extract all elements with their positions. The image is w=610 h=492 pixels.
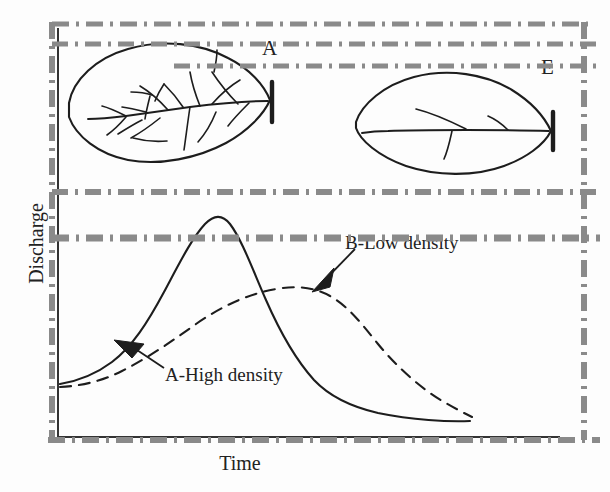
basin-a-tributary	[190, 72, 200, 106]
basin-b-label: E	[541, 55, 554, 80]
figure-ink-layer	[0, 0, 610, 492]
basin-a-tributary	[184, 107, 190, 150]
basin-a-high-drainage-density	[69, 43, 272, 162]
basin-a-tributary	[131, 118, 160, 138]
figure-root: A E A-High density B-Low density Dischar…	[0, 0, 610, 492]
basin-b-low-drainage-density	[356, 73, 553, 174]
arrow-b-head	[312, 268, 334, 292]
curve-a-label: A-High density	[165, 364, 283, 386]
basin-a-tributary	[228, 103, 249, 126]
basin-b-tributary	[444, 131, 452, 159]
x-axis-label: Time	[0, 452, 480, 475]
basin-a-tributary	[133, 138, 167, 141]
basin-a-tributary	[122, 107, 146, 112]
basin-a-tributary	[107, 117, 126, 135]
basin-b-tributary	[488, 116, 508, 130]
basin-b-main-stream	[362, 130, 549, 133]
annotation-arrows	[114, 249, 355, 368]
curve-b-label: B-Low density	[345, 232, 458, 254]
basin-a-tributary	[155, 84, 164, 101]
basin-a-tributary	[198, 112, 216, 142]
basin-b-tributary	[416, 109, 466, 129]
basin-a-tributary	[164, 84, 183, 107]
y-axis-label: Discharge	[25, 184, 48, 304]
basin-a-tributary	[140, 86, 168, 110]
basin-a-label: A	[262, 36, 277, 61]
basin-a-tributary	[145, 96, 150, 119]
